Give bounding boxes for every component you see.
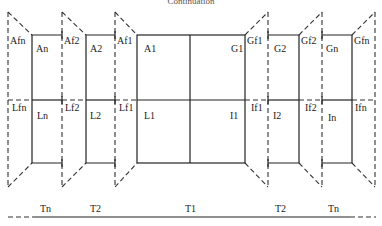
label-an: An [36, 43, 48, 54]
diagram-title: Continuation [168, 0, 215, 6]
label-l1: L1 [144, 110, 155, 121]
label-lf1: Lf1 [119, 102, 133, 113]
label-lfn: Lfn [12, 102, 26, 113]
panel-1-center [137, 35, 245, 163]
flap-diagonals-top [8, 12, 375, 35]
label-in: In [328, 112, 336, 123]
label-tn-left: Tn [40, 203, 51, 214]
label-a2: A2 [90, 43, 102, 54]
label-t2-right: T2 [275, 203, 286, 214]
top-panel-labels: An A2 A1 G1 G2 Gn [36, 43, 338, 54]
flap-diagonals-bottom [8, 163, 375, 187]
label-i2: I2 [273, 110, 281, 121]
label-lf2: Lf2 [65, 102, 79, 113]
middle-flap-labels: Lfn Lf2 Lf1 If1 If2 Ifn [12, 102, 367, 113]
panel-layout-diagram: Continuation [0, 0, 382, 226]
label-af2: Af2 [64, 35, 80, 46]
label-afn: Afn [10, 35, 26, 46]
label-af1: Af1 [117, 35, 133, 46]
label-tn-right: Tn [328, 203, 339, 214]
diagram-canvas: Continuation [0, 0, 382, 226]
label-i1: I1 [230, 110, 238, 121]
label-ln: Ln [37, 110, 48, 121]
middle-panel-labels: Ln L2 L1 I1 I2 In [37, 110, 336, 123]
label-if1: If1 [251, 102, 263, 113]
label-gf2: Gf2 [301, 35, 317, 46]
label-a1: A1 [144, 43, 156, 54]
label-gfn: Gfn [354, 35, 370, 46]
bottom-axis: Tn T2 T1 T2 Tn [8, 203, 376, 217]
label-if2: If2 [305, 102, 317, 113]
label-gn: Gn [326, 43, 338, 54]
label-l2: L2 [90, 110, 101, 121]
label-ifn: Ifn [355, 102, 367, 113]
label-t1: T1 [185, 203, 196, 214]
label-g1: G1 [231, 43, 243, 54]
label-gf1: Gf1 [247, 35, 263, 46]
label-t2-left: T2 [90, 203, 101, 214]
label-g2: G2 [274, 43, 286, 54]
